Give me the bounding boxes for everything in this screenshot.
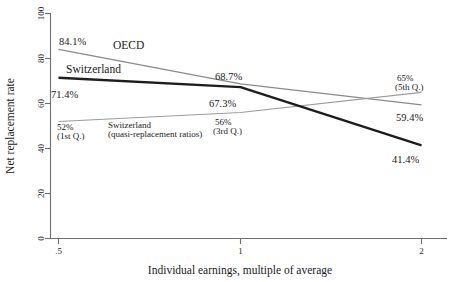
ytick-label-100: 100: [36, 6, 46, 20]
ytick-label-80: 80: [36, 54, 46, 64]
value-label-71-4: 71.4%: [51, 89, 78, 100]
chart-container: 100 80 60 40 20 0 .5 1 2 Net replacement…: [0, 0, 449, 282]
y-tick-labels: 100 80 60 40 20 0: [36, 6, 46, 241]
x-axis-title: Individual earnings, multiple of average: [148, 264, 332, 277]
xtick-label-one: 1: [238, 246, 243, 256]
value-label-56-sub: (3rd Q.): [213, 126, 242, 136]
value-label-65-sub: (5th Q.): [395, 82, 424, 92]
value-label-68-7: 68.7%: [215, 71, 242, 82]
value-label-84-1: 84.1%: [59, 36, 86, 47]
ytick-label-60: 60: [36, 99, 46, 109]
value-label-59-4: 59.4%: [396, 112, 423, 123]
axes-group: [45, 13, 447, 244]
chart-svg: 100 80 60 40 20 0 .5 1 2 Net replacement…: [0, 0, 449, 282]
x-tick-labels: .5 1 2: [55, 246, 424, 256]
ytick-label-20: 20: [36, 189, 46, 199]
xtick-label-two: 2: [419, 246, 424, 256]
value-label-41-4: 41.4%: [392, 154, 419, 165]
y-axis-title: Net replacement rate: [4, 78, 17, 174]
series-label-switzerland: Switzerland: [66, 63, 121, 75]
ytick-label-40: 40: [36, 144, 46, 154]
series-label-oecd: OECD: [113, 39, 144, 51]
value-label-52-sub: (1st Q.): [57, 131, 85, 141]
series-label-quasi-line2: (quasi-replacement ratios): [108, 129, 202, 139]
value-label-67-3: 67.3%: [209, 98, 236, 109]
ytick-label-0: 0: [36, 236, 46, 241]
xtick-label-half: .5: [55, 246, 62, 256]
series-line-switzerland-quasi: [59, 92, 422, 121]
